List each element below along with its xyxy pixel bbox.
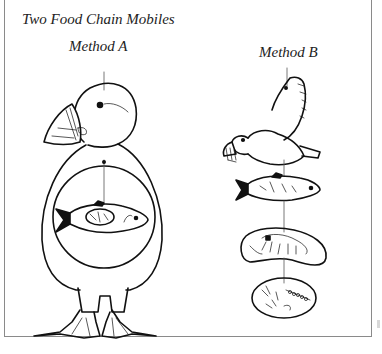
method-a-mobile bbox=[34, 72, 162, 338]
puffin-flying-icon bbox=[223, 77, 320, 164]
plankton-in-fish-icon bbox=[86, 209, 114, 225]
fish-icon bbox=[56, 201, 148, 233]
food-chain-illustration bbox=[0, 0, 382, 354]
edge-mark bbox=[377, 320, 380, 328]
fish-icon bbox=[236, 173, 320, 201]
plankton-oval-icon bbox=[252, 278, 316, 318]
method-b-mobile bbox=[223, 68, 326, 318]
